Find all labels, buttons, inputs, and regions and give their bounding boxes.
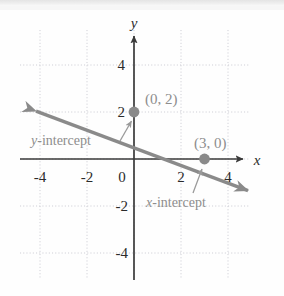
x-tick-label-neg4: -4 [34,169,47,185]
x-tick-label-2: 2 [177,169,185,185]
y-tick-label-4: 4 [118,57,126,73]
y-intercept-point-marker [129,107,140,118]
y-tick-label-2: 2 [118,104,126,120]
x-tick-label-neg2: -2 [81,169,94,185]
y-intercept-annotation: y-intercept [29,133,91,148]
x-axis-name: x [253,152,261,168]
x-intercept-coord-label: (3, 0) [194,135,227,152]
y-axis-name: y [129,15,138,31]
y-intercept-coord-label: (0, 2) [145,91,178,108]
y-intercept-annotation-rest: -intercept [37,133,91,148]
x-tick-label-4: 4 [224,169,232,185]
coordinate-plane-svg: -4 -2 0 2 4 4 2 -2 -4 y x (0, 2) (3, 0) … [0,0,284,296]
y-tick-label-neg2: -2 [116,198,129,214]
x-tick-label-zero: 0 [118,169,126,185]
x-intercept-point-marker [199,154,210,165]
y-tick-label-neg4: -4 [116,245,129,261]
graph-figure: -4 -2 0 2 4 4 2 -2 -4 y x (0, 2) (3, 0) … [0,0,284,296]
x-intercept-annotation: x-intercept [145,195,206,210]
grid-lines [20,30,250,278]
y-intercept-leader-arrow [120,121,132,141]
x-intercept-annotation-rest: -intercept [152,195,206,210]
